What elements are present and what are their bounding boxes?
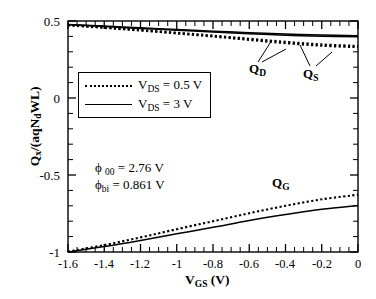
figure-container: 0.5 0 -0.5 -1 -1.6 -1.4 -1.2 -1 -0.8 -0.… (0, 0, 376, 299)
curve-label-qd: QD (249, 62, 266, 78)
legend-symbol-1: V (138, 96, 147, 111)
curve-label-qs-subscript: S (313, 73, 318, 83)
legend-swatch-dotted (85, 85, 132, 87)
y-axis-title-subscript2: d (33, 113, 43, 118)
legend-subscript-1: DS (147, 103, 159, 113)
annotation-phi00: ϕ 00 = 2.76 V (95, 161, 164, 177)
legend-value-1: = 3 V (163, 96, 193, 111)
y-axis-title-subscript: x (33, 151, 43, 156)
annotation-phibi-symbol: ϕ (95, 177, 102, 192)
x-axis-title-subscript: GS (195, 279, 208, 289)
curve-label-qs: QS (303, 67, 318, 83)
legend-symbol-0: V (138, 77, 147, 92)
annotation-phibi: ϕbi = 0.861 V (95, 178, 165, 194)
x-axis-title: VGS (V) (185, 273, 230, 289)
legend-swatch-solid (85, 104, 132, 105)
y-axis-title: Qx/(aqNdWL) (27, 86, 42, 166)
x-axis-title-symbol: V (185, 272, 195, 287)
y-axis-title-symbol: Q (27, 156, 42, 167)
y-axis-title-denominator: /(aqN (27, 119, 42, 151)
annotation-phibi-subscript: bi (102, 184, 109, 194)
annotation-phi00-symbol: ϕ (95, 160, 102, 175)
xtick-label-8: 0 (336, 258, 376, 271)
x-axis-title-unit: (V) (211, 272, 230, 287)
y-axis-title-tail: WL) (27, 86, 42, 113)
plot-frame (68, 21, 358, 252)
legend-label-1: VDS = 3 V (138, 96, 192, 113)
curve-label-qd-subscript: D (259, 68, 266, 78)
curve-label-qg-symbol: Q (272, 175, 282, 190)
ytick-label-0: 0.5 (18, 15, 60, 28)
curve-label-qs-symbol: Q (303, 66, 313, 81)
legend-value-0: = 0.5 V (163, 77, 202, 92)
curve-label-qg-subscript: G (282, 182, 289, 192)
annotation-phi00-value: = 2.76 V (118, 160, 164, 175)
curve-label-qg: QG (272, 176, 290, 192)
legend-label-0: VDS = 0.5 V (138, 77, 202, 94)
legend: VDS = 0.5 V VDS = 3 V (78, 72, 211, 118)
curve-label-qd-symbol: Q (249, 61, 259, 76)
annotation-phi00-subscript: 00 (105, 167, 115, 177)
legend-subscript-0: DS (147, 84, 159, 94)
axes-frame (68, 21, 358, 252)
y-axis-title-wrapper: Qx/(aqNdWL) (25, 46, 44, 206)
annotation-phibi-value: = 0.861 V (112, 177, 164, 192)
